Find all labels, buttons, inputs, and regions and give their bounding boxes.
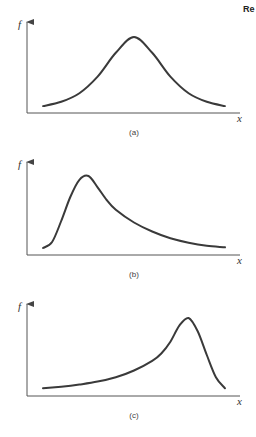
panel-c: fx(c) (18, 300, 242, 420)
y-axis-label: f (18, 300, 23, 312)
y-axis-label: f (18, 158, 23, 170)
panel-a: fx(a) (18, 18, 242, 137)
distribution-curve-left-skewed (43, 318, 225, 388)
x-axis-label: x (236, 112, 242, 124)
x-axis-label: x (236, 395, 242, 407)
panel-caption: (b) (129, 270, 139, 279)
x-axis-label: x (236, 254, 242, 266)
y-axis-label: f (18, 18, 23, 30)
panel-caption: (c) (129, 411, 139, 420)
distribution-curve-right-skewed (43, 176, 225, 248)
panel-caption: (a) (129, 128, 139, 137)
corner-heading-fragment: Re (243, 4, 255, 14)
distribution-curve-symmetric (43, 37, 225, 106)
panel-b: fx(b) (18, 158, 242, 279)
figure: Re fx(a)fx(b)fx(c) (0, 0, 256, 437)
